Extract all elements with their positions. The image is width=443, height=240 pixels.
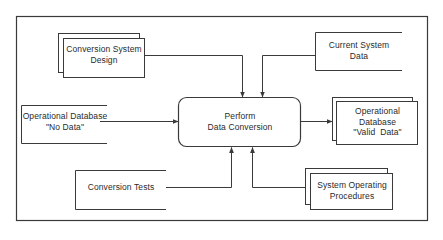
conversion-tests-line1: Conversion Tests	[76, 182, 166, 193]
flow-design-to-process	[145, 56, 243, 98]
operational-database-valid-data-line2: Database	[337, 117, 418, 128]
perform-data-conversion-line2: Data Conversion	[179, 122, 301, 133]
current-system-data-line2: Data	[316, 51, 402, 62]
perform-data-conversion-label: Perform Data Conversion	[179, 111, 301, 132]
system-operating-procedures-line2: Procedures	[311, 191, 393, 202]
conversion-system-design-line2: Design	[63, 55, 145, 66]
operational-database-valid-data-line3: "Valid Data"	[337, 127, 418, 138]
operational-database-valid-data-label: Operational Database "Valid Data"	[337, 106, 418, 138]
system-operating-procedures-line1: System Operating	[311, 180, 393, 191]
conversion-system-design-line1: Conversion System	[63, 44, 145, 55]
flow-tests-to-process	[166, 148, 232, 188]
flow-procedures-to-process	[253, 148, 306, 188]
conversion-system-design-label: Conversion System Design	[63, 44, 145, 65]
operational-database-no-data-line1: Operational Database	[22, 111, 108, 122]
operational-database-valid-data-line1: Operational	[337, 106, 418, 117]
system-operating-procedures-label: System Operating Procedures	[311, 180, 393, 201]
current-system-data-line1: Current System	[316, 40, 402, 51]
flow-current-data-to-process	[263, 56, 316, 98]
current-system-data-label: Current System Data	[316, 40, 402, 61]
operational-database-no-data-line2: "No Data"	[22, 122, 108, 133]
operational-database-no-data-label: Operational Database "No Data"	[22, 111, 108, 132]
perform-data-conversion-line1: Perform	[179, 111, 301, 122]
conversion-tests-label: Conversion Tests	[76, 182, 166, 193]
